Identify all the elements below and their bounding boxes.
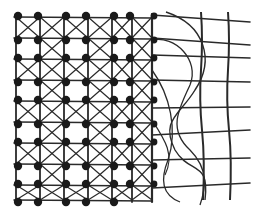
lattice-node (151, 97, 158, 104)
lattice-node (62, 180, 70, 188)
lattice-node (110, 78, 118, 86)
lattice-node (34, 36, 42, 44)
lattice-node (62, 138, 70, 146)
vertical-strand (227, 12, 231, 200)
lattice-node (34, 180, 42, 188)
lattice-node (110, 12, 118, 20)
lattice-node (34, 162, 42, 170)
lattice-node (14, 198, 22, 206)
lattice-node (14, 120, 22, 128)
lattice-node (34, 120, 42, 128)
horizontal-strand (152, 130, 250, 135)
lattice-node (126, 54, 134, 62)
mesh-drawing (0, 0, 262, 215)
lattice-node (82, 96, 90, 104)
lattice-node (82, 198, 90, 206)
lattice-node (14, 78, 22, 86)
lattice-node (110, 54, 118, 62)
lattice-node (82, 180, 90, 188)
lattice-node (62, 120, 70, 128)
horizontal-strand (152, 183, 250, 188)
lattice-node (126, 78, 134, 86)
lattice-node (14, 180, 22, 188)
lattice-node (110, 36, 118, 44)
lattice-node (151, 181, 158, 188)
lattice-node (82, 12, 90, 20)
lattice-node (82, 120, 90, 128)
lattice-node (34, 96, 42, 104)
lattice-node (110, 138, 118, 146)
lattice-node (14, 162, 22, 170)
lattice-node (110, 162, 118, 170)
lattice-nodes (14, 12, 158, 206)
lattice-node (126, 162, 134, 170)
lattice-node (82, 54, 90, 62)
lattice-node (151, 121, 158, 128)
lattice-node (34, 12, 42, 20)
lattice-diagram (0, 0, 262, 215)
lattice-node (110, 198, 118, 206)
lattice-node (82, 78, 90, 86)
lattice-node (34, 54, 42, 62)
lattice-node (151, 13, 158, 20)
lattice-node (14, 96, 22, 104)
lattice-node (151, 55, 158, 62)
lattice-node (126, 138, 134, 146)
lattice-node (62, 12, 70, 20)
lattice-node (82, 36, 90, 44)
lattice-node (62, 198, 70, 206)
lattice-node (62, 162, 70, 170)
lattice-node (14, 138, 22, 146)
lattice-node (110, 180, 118, 188)
lattice-node (151, 79, 158, 86)
lattice-node (151, 139, 158, 146)
curved-strand (152, 39, 204, 205)
horizontal-strand (152, 158, 250, 160)
lattice-node (14, 12, 22, 20)
lattice-node (62, 54, 70, 62)
lattice-node (126, 12, 134, 20)
lattice-node (126, 180, 134, 188)
lattice-node (14, 36, 22, 44)
lattice-node (62, 96, 70, 104)
lattice-node (126, 36, 134, 44)
lattice-node (126, 120, 134, 128)
lattice-node (82, 162, 90, 170)
lattice-node (62, 78, 70, 86)
lattice-node (62, 36, 70, 44)
lattice-node (151, 37, 158, 44)
lattice-node (126, 96, 134, 104)
lattice-node (110, 96, 118, 104)
lattice-node (14, 54, 22, 62)
lattice-node (151, 163, 158, 170)
lattice-node (34, 138, 42, 146)
open-strand-region (152, 12, 250, 205)
lattice-node (82, 138, 90, 146)
lattice-node (34, 198, 42, 206)
lattice-node (34, 78, 42, 86)
lattice-node (110, 120, 118, 128)
